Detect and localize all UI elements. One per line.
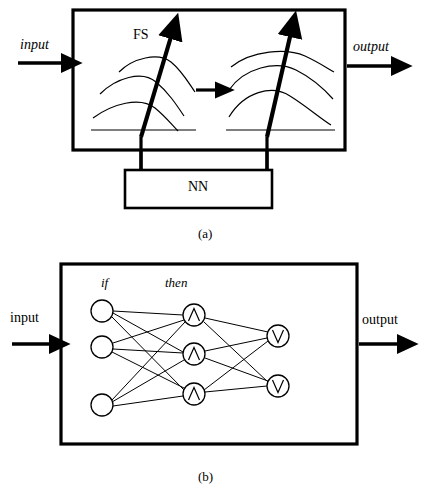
edge-if3-then3 [113, 396, 183, 406]
output-label-b: output [362, 313, 398, 327]
input-label-a: input [20, 38, 49, 52]
edge-if1-then2 [113, 313, 183, 352]
edge-if3-then1 [112, 322, 185, 400]
output-label-a: output [353, 40, 389, 54]
edges-then-to-output [204, 318, 268, 392]
panel-a-group [18, 10, 398, 208]
edge-then3-out1 [204, 341, 268, 390]
fuzzy-right-curve-3 [229, 91, 331, 125]
fuzzy-left-curve-2 [100, 76, 184, 116]
edge-if3-then2 [112, 360, 184, 402]
edge-then1-out1 [205, 318, 268, 332]
edge-then1-out2 [204, 322, 268, 382]
fuzzy-plot-left [91, 30, 196, 137]
edge-if2-then1 [113, 320, 184, 343]
figure-canvas: input output FS NN (a) input output if t… [0, 0, 424, 494]
edges-if-to-then [112, 311, 185, 406]
fuzzy-right-tuning-arrow [267, 28, 292, 137]
input-label-b: input [10, 311, 39, 325]
fs-outer-box [73, 10, 345, 150]
layer-output-nodes [267, 325, 289, 397]
edge-if2-then2 [113, 349, 183, 353]
edge-if1-then3 [112, 317, 184, 390]
then-layer-label: then [165, 276, 187, 289]
layer-then-nodes [183, 304, 205, 405]
if-node-3[interactable] [91, 394, 113, 416]
edge-then3-out2 [205, 386, 267, 392]
caption-b: (b) [198, 470, 213, 483]
panel-b-group [12, 264, 404, 444]
nn-label: NN [188, 180, 208, 194]
edge-if1-then1 [113, 311, 183, 315]
edge-if2-then3 [112, 352, 184, 388]
if-node-1[interactable] [91, 300, 113, 322]
fuzzy-left-curve-3 [93, 102, 178, 131]
layer-if-nodes [91, 300, 113, 416]
fuzzy-plot-right [226, 28, 335, 137]
edge-then2-out2 [205, 358, 268, 381]
if-node-2[interactable] [91, 336, 113, 358]
fs-label: FS [133, 28, 149, 42]
figure-vector-layer [0, 0, 424, 494]
caption-a: (a) [198, 227, 212, 240]
if-layer-label: if [101, 276, 108, 289]
